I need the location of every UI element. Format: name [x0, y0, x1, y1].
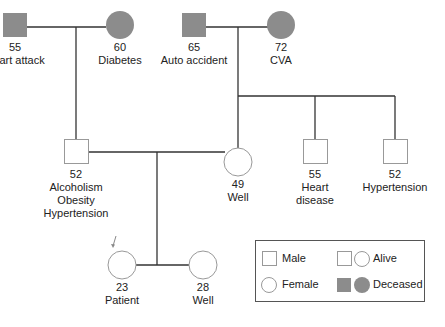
- legend-male-label: Male: [282, 252, 306, 265]
- legend-female-label: Female: [282, 278, 319, 291]
- patient-symbol: [108, 251, 136, 279]
- condition-text: Hypertension: [363, 181, 428, 194]
- maternal-grandmother-label: 72 CVA: [270, 41, 292, 67]
- maternal-grandfather-symbol: [182, 13, 206, 37]
- father-symbol: [65, 140, 89, 164]
- maternal-uncle-2-label: 52 Hypertension: [363, 168, 428, 194]
- legend: Male Female Alive Deceased: [255, 240, 425, 302]
- patient-label: 23 Patient: [105, 281, 139, 307]
- condition-text: disease: [296, 194, 334, 207]
- age-text: 52: [44, 168, 109, 181]
- maternal-grandfather-label: 65 Auto accident: [161, 41, 228, 67]
- age-text: 72: [270, 41, 292, 54]
- paternal-grandmother-symbol: [106, 11, 134, 39]
- sister-label: 28 Well: [192, 281, 213, 307]
- condition-text: Diabetes: [98, 54, 141, 67]
- age-text: 55: [0, 41, 45, 54]
- legend-alive-label: Alive: [373, 252, 397, 265]
- age-text: 23: [105, 281, 139, 294]
- alive-symbols-icon: [337, 251, 371, 268]
- age-text: 49: [227, 178, 248, 191]
- condition-text: Alcoholism: [44, 181, 109, 194]
- legend-deceased-label: Deceased: [373, 278, 423, 291]
- paternal-grandmother-label: 60 Diabetes: [98, 41, 141, 67]
- condition-text: Heart attack: [0, 54, 45, 67]
- female-circle-icon: [261, 277, 278, 294]
- sister-symbol: [189, 251, 217, 279]
- condition-text: Heart: [296, 181, 334, 194]
- condition-text: Obesity: [44, 194, 109, 207]
- proband-arrow-icon: [111, 236, 116, 248]
- condition-text: Patient: [105, 294, 139, 307]
- age-text: 60: [98, 41, 141, 54]
- male-square-icon: [262, 251, 278, 267]
- mother-label: 49 Well: [227, 178, 248, 204]
- deceased-symbols-icon: [337, 277, 371, 294]
- age-text: 55: [296, 168, 334, 181]
- paternal-grandfather-label: 55 Heart attack: [0, 41, 45, 67]
- age-text: 28: [192, 281, 213, 294]
- father-label: 52 Alcoholism Obesity Hypertension: [44, 168, 109, 220]
- maternal-uncle-1-symbol: [304, 140, 328, 164]
- maternal-grandmother-symbol: [267, 11, 295, 39]
- maternal-uncle-2-symbol: [384, 140, 408, 164]
- age-text: 52: [363, 168, 428, 181]
- condition-text: Hypertension: [44, 207, 109, 220]
- condition-text: CVA: [270, 54, 292, 67]
- age-text: 65: [161, 41, 228, 54]
- maternal-uncle-1-label: 55 Heart disease: [296, 168, 334, 207]
- mother-symbol: [224, 148, 252, 176]
- condition-text: Well: [227, 191, 248, 204]
- paternal-grandfather-symbol: [3, 13, 27, 37]
- condition-text: Auto accident: [161, 54, 228, 67]
- condition-text: Well: [192, 294, 213, 307]
